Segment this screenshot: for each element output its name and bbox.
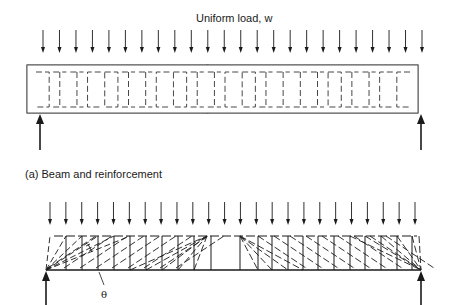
uniform-load-arrows-top bbox=[41, 30, 424, 53]
uniform-load-arrows-bottom bbox=[48, 202, 417, 225]
right-support-reaction-bottom bbox=[417, 271, 425, 305]
theta-leader-line bbox=[99, 272, 104, 285]
beam-diagram bbox=[0, 0, 459, 305]
left-support-reaction-top bbox=[36, 114, 44, 150]
left-support-reaction-bottom bbox=[42, 271, 50, 305]
beam-outline-full bbox=[27, 65, 418, 113]
truss-model bbox=[46, 236, 434, 270]
right-support-reaction-top bbox=[417, 114, 425, 150]
